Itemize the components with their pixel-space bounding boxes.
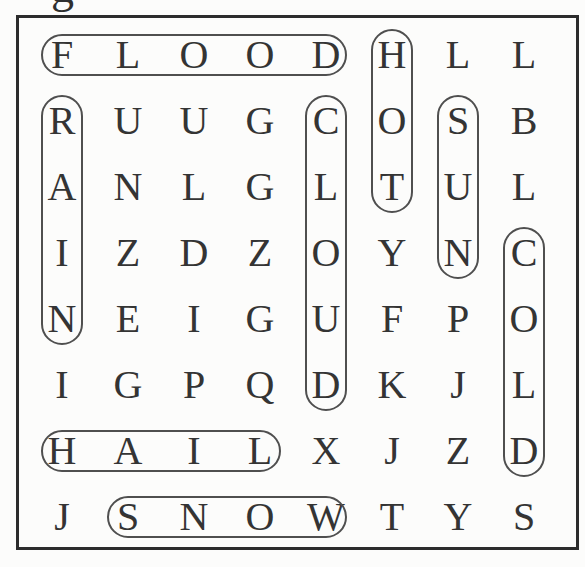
grid-letter-r3c2: N bbox=[95, 154, 161, 220]
found-word-oval-hot bbox=[371, 29, 413, 213]
grid-letter-r2c4: G bbox=[227, 88, 293, 154]
grid-letter-r8c6: T bbox=[359, 484, 425, 550]
scanned-puzzle-page: g FLOODHLLRUUGCOSBANLGLTULIZDZOYNCNEIGUF… bbox=[0, 0, 585, 567]
found-word-oval-cold bbox=[503, 227, 545, 477]
grid-letter-r3c4: G bbox=[227, 154, 293, 220]
grid-letter-r6c3: P bbox=[161, 352, 227, 418]
grid-letter-r2c2: U bbox=[95, 88, 161, 154]
found-word-oval-snow bbox=[107, 496, 347, 538]
found-word-oval-cloud bbox=[305, 95, 347, 411]
found-word-oval-hail bbox=[41, 430, 281, 472]
grid-letter-r4c3: D bbox=[161, 220, 227, 286]
grid-letter-r1c7: L bbox=[425, 22, 491, 88]
grid-letter-r6c2: G bbox=[95, 352, 161, 418]
grid-letter-r4c4: Z bbox=[227, 220, 293, 286]
grid-letter-r5c4: G bbox=[227, 286, 293, 352]
grid-letter-r5c6: F bbox=[359, 286, 425, 352]
grid-letter-r1c8: L bbox=[491, 22, 557, 88]
cropped-title-text: g bbox=[51, 0, 74, 13]
found-word-oval-sun bbox=[437, 95, 479, 279]
found-word-oval-rain bbox=[41, 95, 83, 345]
grid-letter-r6c7: J bbox=[425, 352, 491, 418]
grid-letter-r2c8: B bbox=[491, 88, 557, 154]
grid-letter-r5c3: I bbox=[161, 286, 227, 352]
grid-letter-r4c6: Y bbox=[359, 220, 425, 286]
grid-letter-r7c7: Z bbox=[425, 418, 491, 484]
grid-letter-r5c7: P bbox=[425, 286, 491, 352]
grid-letter-r2c3: U bbox=[161, 88, 227, 154]
grid-letter-r5c2: E bbox=[95, 286, 161, 352]
grid-letter-r3c8: L bbox=[491, 154, 557, 220]
grid-letter-r6c1: I bbox=[29, 352, 95, 418]
grid-letter-r3c3: L bbox=[161, 154, 227, 220]
grid-letter-r8c7: Y bbox=[425, 484, 491, 550]
grid-letter-r7c6: J bbox=[359, 418, 425, 484]
grid-letter-r8c8: S bbox=[491, 484, 557, 550]
grid-letter-r7c5: X bbox=[293, 418, 359, 484]
found-word-oval-flood bbox=[41, 34, 347, 76]
grid-letter-r4c2: Z bbox=[95, 220, 161, 286]
grid-letter-r8c1: J bbox=[29, 484, 95, 550]
grid-letter-r6c4: Q bbox=[227, 352, 293, 418]
grid-letter-r6c6: K bbox=[359, 352, 425, 418]
